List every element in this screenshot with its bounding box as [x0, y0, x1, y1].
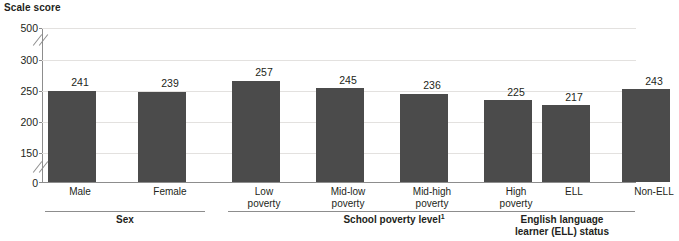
plot-area: [42, 28, 636, 182]
bar-label-low-poverty: Low poverty: [226, 186, 302, 209]
bar-label-non-ell: Non-ELL: [616, 186, 679, 198]
bar-label-mid-low-poverty-line1: Mid-low: [310, 186, 386, 198]
bar-male[interactable]: [48, 91, 96, 182]
y-tick-label-250: 250: [6, 86, 38, 96]
y-tick-label-300: 300: [6, 55, 38, 65]
bar-label-mid-high-poverty-line2: poverty: [394, 198, 470, 210]
bar-label-mid-low-poverty: Mid-low poverty: [310, 186, 386, 209]
bar-value-non-ell: 243: [616, 75, 679, 87]
group-rule-ell-status: [495, 211, 635, 212]
bar-low-poverty[interactable]: [232, 81, 280, 182]
gridline-500: [42, 28, 636, 29]
bar-mid-high-poverty[interactable]: [400, 94, 448, 182]
group-label-ell-status-line1: English language: [487, 214, 637, 226]
bar-label-non-ell-line1: Non-ELL: [616, 186, 679, 198]
group-label-ell-status-line2: learner (ELL) status: [487, 226, 637, 238]
bar-label-ell: ELL: [536, 186, 612, 198]
bar-label-male: Male: [42, 186, 118, 198]
group-label-sex: Sex: [45, 214, 205, 226]
bar-label-female-line1: Female: [132, 186, 208, 198]
bar-value-ell: 217: [536, 91, 612, 103]
bar-high-poverty[interactable]: [484, 100, 532, 182]
bar-value-male: 241: [42, 76, 118, 88]
bar-label-mid-high-poverty: Mid-high poverty: [394, 186, 470, 209]
bar-value-low-poverty: 257: [226, 66, 302, 78]
bar-ell[interactable]: [542, 105, 590, 182]
bar-label-low-poverty-line1: Low: [226, 186, 302, 198]
bar-value-female: 239: [132, 77, 208, 89]
group-label-ell-status: English language learner (ELL) status: [487, 214, 637, 238]
footnote-marker-school-poverty-level: 1: [441, 213, 445, 220]
bar-label-female: Female: [132, 186, 208, 198]
bar-label-low-poverty-line2: poverty: [226, 198, 302, 210]
bar-label-ell-line1: ELL: [536, 186, 612, 198]
bar-value-mid-high-poverty: 236: [394, 79, 470, 91]
bar-label-male-line1: Male: [42, 186, 118, 198]
y-tick-label-150: 150: [6, 148, 38, 158]
bar-value-mid-low-poverty: 245: [310, 74, 386, 86]
group-label-school-poverty-level-line1: School poverty level: [343, 214, 440, 225]
bar-label-high-poverty-line2: poverty: [478, 198, 554, 210]
y-tick-label-200: 200: [6, 117, 38, 127]
bar-non-ell[interactable]: [622, 89, 670, 182]
group-label-sex-line1: Sex: [116, 214, 134, 225]
bar-label-mid-low-poverty-line2: poverty: [310, 198, 386, 210]
bar-mid-low-poverty[interactable]: [316, 88, 364, 182]
group-rule-sex: [45, 211, 205, 212]
bar-label-mid-high-poverty-line1: Mid-high: [394, 186, 470, 198]
bar-female[interactable]: [138, 92, 186, 182]
x-axis-baseline: [42, 182, 636, 183]
gridline-300: [42, 60, 636, 61]
y-tick-label-500: 500: [6, 23, 38, 33]
